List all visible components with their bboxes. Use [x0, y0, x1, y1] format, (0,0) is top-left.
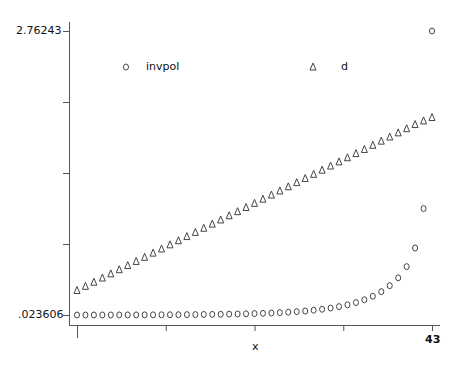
x-tick-label-max: 43: [425, 333, 440, 346]
triangle-marker: [361, 145, 367, 152]
triangle-marker: [336, 158, 342, 165]
circle-marker: [108, 312, 113, 318]
circle-marker: [396, 275, 401, 281]
triangle-marker: [412, 121, 418, 128]
x-axis-label: x: [252, 340, 259, 353]
circle-marker: [260, 310, 265, 316]
triangle-marker: [243, 204, 249, 211]
triangle-marker: [294, 179, 300, 186]
circle-marker: [379, 289, 384, 295]
y-ticks: [63, 32, 69, 316]
circle-marker: [328, 305, 333, 311]
triangle-marker: [142, 253, 148, 260]
circle-marker: [294, 309, 299, 315]
circle-marker: [117, 312, 122, 318]
circle-marker: [320, 306, 325, 312]
triangle-marker: [167, 241, 173, 248]
series-d: [74, 114, 435, 294]
triangle-marker: [344, 154, 350, 161]
triangle-marker: [302, 174, 308, 181]
triangle-marker: [370, 141, 376, 148]
circle-marker: [303, 308, 308, 314]
triangle-marker: [395, 129, 401, 136]
circle-marker: [193, 312, 198, 318]
circle-marker: [210, 311, 215, 317]
circle-marker: [134, 312, 139, 318]
series-invpol: [75, 28, 435, 318]
circle-marker: [227, 311, 232, 317]
triangle-marker: [421, 117, 427, 124]
circle-marker: [75, 312, 80, 318]
triangle-marker: [319, 166, 325, 173]
triangle-marker: [209, 220, 215, 227]
circle-marker: [218, 311, 223, 317]
triangle-marker: [82, 282, 88, 289]
triangle-marker: [378, 137, 384, 144]
triangle-marker: [429, 114, 435, 121]
triangle-marker: [252, 199, 258, 206]
circle-marker: [404, 264, 409, 270]
circle-marker: [201, 311, 206, 317]
circle-marker: [421, 206, 426, 212]
circle-marker: [353, 300, 358, 306]
triangle-marker: [125, 262, 131, 269]
circle-marker: [142, 312, 147, 318]
y-tick-label-min: .023606: [18, 308, 64, 321]
triangle-marker: [260, 195, 266, 202]
legend-circle-icon: [124, 64, 129, 70]
legend-triangle-icon: [310, 63, 316, 70]
scatter-plot: [0, 0, 459, 371]
circle-marker: [269, 310, 274, 316]
circle-marker: [252, 311, 257, 317]
circle-marker: [345, 302, 350, 308]
triangle-marker: [175, 237, 181, 244]
x-ticks: [78, 325, 433, 338]
circle-marker: [387, 283, 392, 289]
circle-marker: [235, 311, 240, 317]
triangle-marker: [353, 150, 359, 157]
circle-marker: [286, 309, 291, 315]
triangle-marker: [285, 183, 291, 190]
circle-marker: [176, 312, 181, 318]
triangle-marker: [74, 286, 80, 293]
circle-marker: [91, 312, 96, 318]
circle-marker: [370, 293, 375, 299]
circle-marker: [337, 304, 342, 310]
circle-marker: [159, 312, 164, 318]
circle-marker: [430, 28, 435, 34]
circle-marker: [167, 312, 172, 318]
circle-marker: [413, 245, 418, 251]
circle-marker: [362, 297, 367, 303]
circle-marker: [100, 312, 105, 318]
triangle-marker: [328, 162, 334, 169]
triangle-marker: [184, 233, 190, 240]
triangle-marker: [404, 125, 410, 132]
triangle-marker: [226, 212, 232, 219]
circle-marker: [83, 312, 88, 318]
triangle-marker: [201, 224, 207, 231]
triangle-marker: [150, 249, 156, 256]
triangle-marker: [91, 278, 97, 285]
triangle-marker: [277, 187, 283, 194]
circle-marker: [125, 312, 130, 318]
triangle-marker: [268, 191, 274, 198]
triangle-marker: [133, 257, 139, 264]
triangle-marker: [218, 216, 224, 223]
circle-marker: [244, 311, 249, 317]
circle-marker: [277, 310, 282, 316]
triangle-marker: [192, 228, 198, 235]
circle-marker: [184, 312, 189, 318]
circle-marker: [311, 307, 316, 313]
triangle-marker: [108, 270, 114, 277]
triangle-marker: [235, 208, 241, 215]
legend-label-invpol: invpol: [146, 60, 179, 73]
circle-marker: [151, 312, 156, 318]
triangle-marker: [311, 170, 317, 177]
triangle-marker: [99, 274, 105, 281]
triangle-marker: [387, 133, 393, 140]
triangle-marker: [116, 266, 122, 273]
legend-label-d: d: [341, 60, 348, 73]
y-tick-label-max: 2.76243: [16, 24, 62, 37]
triangle-marker: [159, 245, 165, 252]
